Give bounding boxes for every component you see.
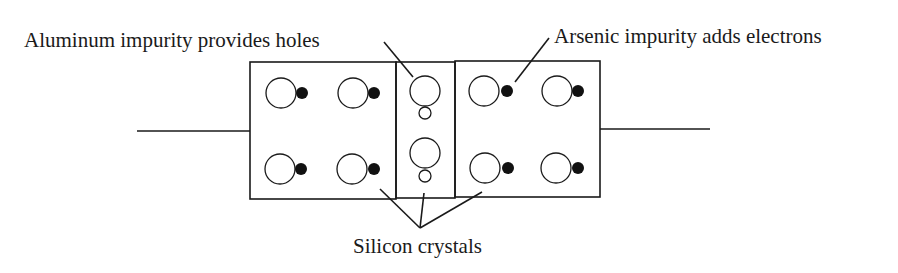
silicon-leader-line-left	[380, 189, 420, 228]
arsenic-atom	[541, 153, 571, 183]
electron-dot	[572, 162, 584, 174]
silicon-atom	[338, 78, 368, 108]
electron-dot	[295, 163, 307, 175]
left-crystal-atoms	[265, 78, 380, 184]
hole-circle	[419, 170, 431, 182]
atom-with-electron	[265, 154, 307, 184]
aluminum-leader-line	[384, 42, 413, 77]
aluminum-label: Aluminum impurity provides holes	[24, 28, 320, 52]
silicon-label: Silicon crystals	[353, 234, 482, 258]
atom-with-electron	[542, 76, 584, 106]
atom-with-electron	[337, 154, 380, 184]
silicon-atom	[266, 78, 296, 108]
middle-crystal-atoms	[410, 76, 440, 182]
silicon-atom	[265, 154, 295, 184]
silicon-atom	[337, 154, 367, 184]
arsenic-leader-line	[515, 38, 549, 82]
atom-with-electron	[541, 153, 584, 183]
atom-with-electron	[266, 78, 308, 108]
electron-dot	[368, 163, 380, 175]
hole-circle	[419, 107, 431, 119]
aluminum-atom	[410, 76, 440, 106]
atom-with-electron	[338, 78, 380, 108]
electron-dot	[368, 87, 380, 99]
arsenic-atom	[469, 76, 499, 106]
aluminum-atom	[410, 138, 440, 168]
arsenic-label: Arsenic impurity adds electrons	[554, 24, 822, 48]
arsenic-atom	[542, 76, 572, 106]
electron-dot	[296, 87, 308, 99]
right-crystal-atoms	[469, 76, 584, 183]
atom-with-hole	[410, 138, 440, 182]
atom-with-electron	[470, 153, 514, 183]
atom-with-hole	[410, 76, 440, 119]
electron-dot	[502, 162, 514, 174]
atom-with-electron	[469, 76, 513, 106]
electron-dot	[501, 85, 513, 97]
electron-dot	[572, 85, 584, 97]
diagram-canvas: Aluminum impurity provides holes Arsenic…	[0, 0, 898, 273]
arsenic-atom	[470, 153, 500, 183]
